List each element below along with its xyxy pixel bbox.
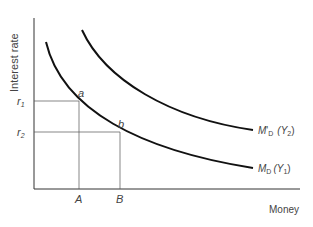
y-axis-label: Interest rate [8,33,20,92]
md-y2-label: M'D(Y2) [258,125,295,137]
money-demand-diagram: Interest rate r1 r2 A B a b M'D(Y2) MD(Y… [0,0,313,227]
r2-label: r2 [17,126,25,139]
md-y2-curve [82,30,253,130]
b-quantity-label: B [116,193,123,205]
a-quantity-label: A [74,193,82,205]
point-a-label: a [78,87,84,99]
md-y1-label: MD(Y1) [258,163,291,175]
x-axis-label: Money [269,204,299,215]
r1-label: r1 [17,95,25,108]
md-y1-curve [46,42,253,168]
point-b-label: b [118,118,124,130]
